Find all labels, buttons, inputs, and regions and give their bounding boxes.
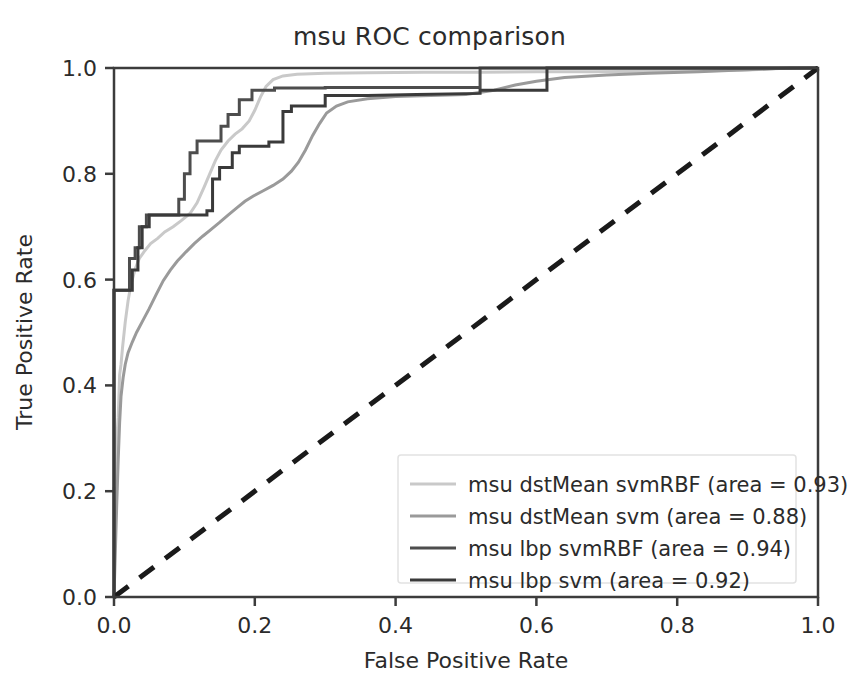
y-tick-label: 0.6: [62, 268, 97, 293]
x-tick-label: 0.8: [660, 613, 695, 638]
x-tick-label: 0.2: [237, 613, 272, 638]
legend-label-3: msu lbp svm (area = 0.92): [468, 569, 750, 593]
roc-figure: msu ROC comparison 0.00.20.40.60.81.0 0.…: [0, 0, 859, 684]
legend: msu dstMean svmRBF (area = 0.93)msu dstM…: [398, 455, 848, 593]
y-axis-title: True Positive Rate: [12, 234, 37, 431]
y-tick-label: 0.2: [62, 479, 97, 504]
x-tick-label: 0.0: [97, 613, 132, 638]
legend-label-1: msu dstMean svm (area = 0.88): [468, 505, 807, 529]
x-axis-ticks: 0.00.20.40.60.81.0: [97, 597, 836, 638]
y-tick-label: 0.8: [62, 162, 97, 187]
y-axis-ticks: 0.00.20.40.60.81.0: [62, 56, 114, 610]
y-tick-label: 0.4: [62, 373, 97, 398]
y-tick-label: 0.0: [62, 585, 97, 610]
x-tick-label: 0.4: [378, 613, 413, 638]
legend-label-0: msu dstMean svmRBF (area = 0.93): [468, 473, 848, 497]
x-tick-label: 0.6: [519, 613, 554, 638]
x-axis-title: False Positive Rate: [364, 648, 568, 673]
legend-label-2: msu lbp svmRBF (area = 0.94): [468, 537, 791, 561]
y-tick-label: 1.0: [62, 56, 97, 81]
x-tick-label: 1.0: [801, 613, 836, 638]
roc-plot: 0.00.20.40.60.81.0 0.00.20.40.60.81.0 Fa…: [0, 0, 859, 684]
